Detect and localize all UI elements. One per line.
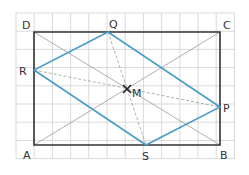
label-S: S bbox=[142, 150, 149, 163]
label-A: A bbox=[23, 149, 31, 162]
label-B: B bbox=[220, 149, 228, 162]
diagram-canvas: D C A B Q R P S M bbox=[0, 0, 249, 175]
label-R: R bbox=[19, 65, 27, 78]
label-C: C bbox=[223, 19, 231, 32]
geometry-diagram: D C A B Q R P S M bbox=[0, 0, 249, 175]
grid-lines bbox=[16, 13, 234, 159]
label-Q: Q bbox=[109, 18, 118, 31]
label-M: M bbox=[132, 87, 142, 100]
label-D: D bbox=[22, 19, 30, 32]
label-P: P bbox=[223, 102, 230, 115]
